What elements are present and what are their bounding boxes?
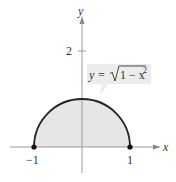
function-label-exponent: 2 [143, 66, 147, 75]
y-axis-label: y [77, 4, 84, 18]
semicircle-chart: y x 2 −1 1 y = 1 − x 2 [0, 0, 176, 182]
point-pos1 [127, 144, 132, 149]
x-axis-label: x [162, 140, 169, 154]
x-tick-label-1: 1 [127, 153, 133, 167]
x-tick-label-neg1: −1 [26, 153, 39, 167]
function-label-radicand: 1 − x [120, 68, 145, 82]
y-tick-label-2: 2 [66, 44, 72, 58]
x-axis-arrow-icon [153, 145, 161, 150]
function-label: y = [88, 68, 105, 82]
point-neg1 [31, 144, 36, 149]
